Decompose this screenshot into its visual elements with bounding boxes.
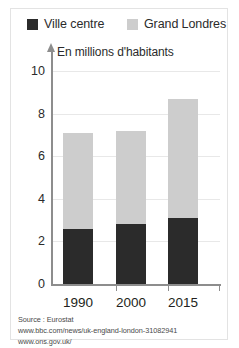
bar-segment-ville-centre-1990 [63,229,93,284]
bar-segment-grand-londres-2000 [116,131,146,224]
bar-segment-grand-londres-2015 [168,99,198,218]
x-tick-2 [168,284,169,291]
plot-area: 10 8 6 4 2 0 1990 2000 2015 [11,9,229,341]
x-axis-label-1990: 1990 [63,295,93,310]
source-line-bbc-url: www.bbc.com/news/uk-england-london-31082… [18,326,177,337]
gridline-10 [52,71,220,72]
source-line-ons-url: www.ons.gov.uk/ [18,337,177,348]
y-tick-label-6: 6 [19,149,45,163]
x-axis-label-2000: 2000 [116,295,146,310]
x-axis-end-cap [219,284,220,291]
y-tick-label-8: 8 [19,107,45,121]
x-tick-1 [116,284,117,291]
bar-segment-ville-centre-2015 [168,218,198,284]
x-axis-label-2015: 2015 [168,295,198,310]
y-tick-label-2: 2 [19,234,45,248]
bar-group-2000 [116,131,146,284]
bar-segment-ville-centre-2000 [116,224,146,284]
source-note: Source : Eurostat www.bbc.com/news/uk-en… [18,315,177,348]
y-axis-line [51,51,53,285]
source-line-eurostat: Source : Eurostat [18,315,177,326]
bar-segment-grand-londres-1990 [63,133,93,229]
y-tick-label-0: 0 [19,277,45,291]
y-tick-label-4: 4 [19,192,45,206]
chart-figure: Ville centre Grand Londres En millions d… [10,8,228,340]
x-axis-line [51,284,221,286]
bar-group-1990 [63,133,93,284]
bar-group-2015 [168,99,198,284]
y-tick-label-10: 10 [19,64,45,78]
